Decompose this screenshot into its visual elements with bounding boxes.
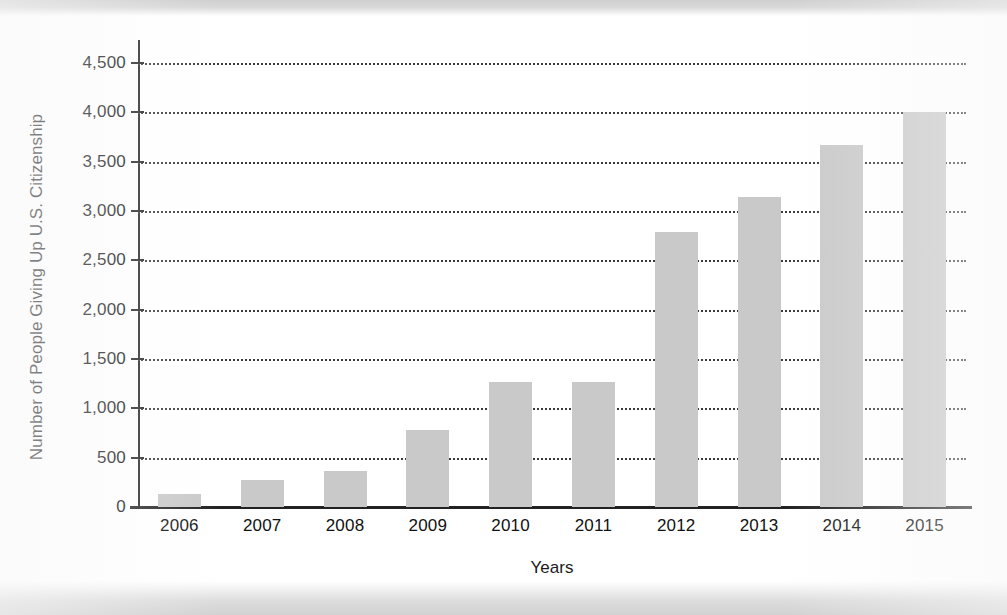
x-axis-tick-label: 2012 xyxy=(636,516,716,536)
bar xyxy=(738,197,781,507)
y-axis-tick-label: 2,500 xyxy=(48,250,126,270)
y-axis-tick xyxy=(131,210,144,212)
x-axis-tick-label: 2013 xyxy=(719,516,799,536)
bar xyxy=(158,494,201,507)
bar xyxy=(324,471,367,507)
y-axis-tick xyxy=(131,309,144,311)
bar xyxy=(572,382,615,507)
bar xyxy=(241,480,284,507)
y-axis-tick xyxy=(131,506,144,508)
gridline xyxy=(138,112,966,114)
bar xyxy=(406,430,449,507)
x-axis-tick-label: 2007 xyxy=(222,516,302,536)
y-axis-tick xyxy=(131,457,144,459)
y-axis-tick-label: 4,500 xyxy=(48,53,126,73)
y-axis-tick-label: 2,000 xyxy=(48,300,126,320)
y-axis-tick-label: 500 xyxy=(48,448,126,468)
x-axis-tick-label: 2014 xyxy=(802,516,882,536)
y-axis-tick-label: 3,000 xyxy=(48,201,126,221)
y-axis-tick-label: 1,000 xyxy=(48,398,126,418)
x-axis-tick-label: 2006 xyxy=(139,516,219,536)
y-axis-title: Number of People Giving Up U.S. Citizens… xyxy=(24,52,50,522)
chart-page: Number of People Giving Up U.S. Citizens… xyxy=(0,0,1007,615)
y-axis-tick xyxy=(131,62,144,64)
y-axis-tick xyxy=(131,161,144,163)
x-axis-title: Years xyxy=(138,558,966,578)
y-axis-tick-labels: 05001,0001,5002,0002,5003,0003,5004,0004… xyxy=(48,55,126,507)
y-axis-tick xyxy=(131,111,144,113)
x-axis-tick-label: 2009 xyxy=(388,516,468,536)
y-axis-tick-label: 3,500 xyxy=(48,152,126,172)
x-axis-tick-label: 2008 xyxy=(305,516,385,536)
x-axis-tick-label: 2011 xyxy=(553,516,633,536)
bar xyxy=(820,145,863,507)
gridline xyxy=(138,63,966,65)
bar xyxy=(655,232,698,507)
y-axis-tick xyxy=(131,259,144,261)
x-axis-tick-label: 2010 xyxy=(471,516,551,536)
bar-chart: Number of People Giving Up U.S. Citizens… xyxy=(0,0,1007,615)
y-axis-tick xyxy=(131,407,144,409)
bar xyxy=(903,112,946,507)
x-axis-tick-label: 2015 xyxy=(885,516,965,536)
y-axis-tick-label: 1,500 xyxy=(48,349,126,369)
y-axis-tick xyxy=(131,358,144,360)
bar xyxy=(489,382,532,507)
y-axis-tick-label: 0 xyxy=(48,497,126,517)
y-axis-tick-label: 4,000 xyxy=(48,102,126,122)
plot-area xyxy=(138,55,966,507)
